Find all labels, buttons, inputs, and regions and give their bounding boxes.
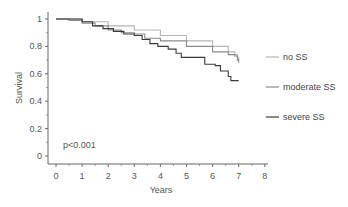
legend-label: no SS xyxy=(283,52,308,62)
x-tick-label: 6 xyxy=(210,171,215,181)
y-tick-label: 0.4 xyxy=(29,96,42,106)
y-tick-label: 0.6 xyxy=(29,69,42,79)
survival-chart: 00.20.40.60.81012345678 p<0.001 Survival… xyxy=(0,0,348,207)
x-tick-label: 5 xyxy=(184,171,189,181)
survival-curves xyxy=(56,19,239,81)
legend-label: moderate SS xyxy=(283,82,336,92)
legend-item: no SS xyxy=(266,52,308,62)
legend: no SSmoderate SSsevere SS xyxy=(266,52,336,122)
x-tick-label: 4 xyxy=(158,171,163,181)
p-value-annotation: p<0.001 xyxy=(63,140,96,150)
legend-item: moderate SS xyxy=(266,82,336,92)
y-tick-label: 0.8 xyxy=(29,41,42,51)
y-tick-label: 0.2 xyxy=(29,124,42,134)
y-axis-title: Survival xyxy=(14,72,24,104)
x-tick-label: 7 xyxy=(236,171,241,181)
x-tick-label: 1 xyxy=(80,171,85,181)
x-tick-label: 0 xyxy=(53,171,58,181)
x-axis-title: Years xyxy=(150,185,173,195)
x-tick-label: 2 xyxy=(106,171,111,181)
legend-item: severe SS xyxy=(266,112,325,122)
legend-label: severe SS xyxy=(283,112,325,122)
x-tick-label: 8 xyxy=(262,171,267,181)
x-tick-label: 3 xyxy=(132,171,137,181)
y-tick-label: 1 xyxy=(37,14,42,24)
axes: 00.20.40.60.81012345678 xyxy=(29,12,268,181)
curve-severe-ss xyxy=(56,19,239,81)
y-tick-label: 0 xyxy=(37,151,42,161)
